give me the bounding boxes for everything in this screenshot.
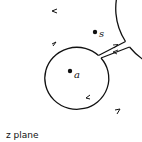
arrow-icon-outer-top (52, 9, 57, 13)
arrow-icon-outer-bottom (115, 109, 120, 114)
point-s-label: s (99, 28, 104, 39)
outer-contour (116, 0, 142, 71)
contour-diagram: a s z plane (0, 0, 142, 142)
arrow-icon-inner-bottom (86, 95, 90, 99)
point-a-dot (68, 69, 72, 73)
arrow-icon-inner-top (52, 42, 56, 46)
plane-label: z plane (6, 130, 39, 140)
point-a-label: a (74, 69, 80, 80)
point-s-dot (93, 30, 97, 34)
